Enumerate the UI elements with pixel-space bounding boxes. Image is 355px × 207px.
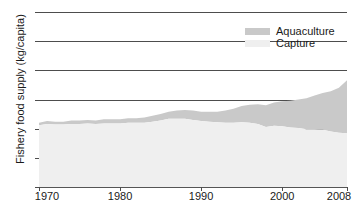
x-tick-label-2008: 2008: [327, 190, 351, 202]
x-tick-mark-1980: [120, 187, 121, 191]
area-capture: [39, 119, 347, 187]
fishery-food-supply-chart: Fishery food supply (kg/capita) 05101520…: [0, 0, 355, 207]
x-axis-line: [39, 187, 347, 188]
legend-item-capture: Capture: [245, 38, 335, 49]
x-tick-label-2000: 2000: [270, 190, 294, 202]
x-tick-label-1980: 1980: [108, 190, 132, 202]
legend-swatch-aquaculture: [245, 28, 270, 35]
x-tick-label-1970: 1970: [35, 190, 59, 202]
legend-item-aquaculture: Aquaculture: [245, 26, 335, 37]
x-tick-label-1990: 1990: [189, 190, 213, 202]
x-tick-mark-2000: [282, 187, 283, 191]
legend: Aquaculture Capture: [245, 26, 335, 50]
x-tick-mark-1990: [201, 187, 202, 191]
y-axis-label: Fishery food supply (kg/capita): [14, 0, 26, 179]
x-tick-mark-1970: [39, 187, 40, 191]
x-tick-mark-2008: [347, 187, 348, 191]
legend-label-capture: Capture: [276, 38, 315, 49]
legend-swatch-capture: [245, 40, 270, 47]
legend-label-aquaculture: Aquaculture: [276, 26, 335, 37]
